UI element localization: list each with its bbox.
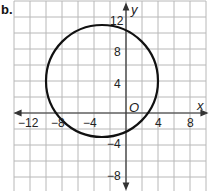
y-axis-down-arrow-icon — [124, 183, 129, 189]
y-tick-neg4: −4 — [107, 138, 121, 150]
x-axis-left-arrow-icon — [15, 111, 21, 116]
x-axis — [15, 111, 207, 116]
origin-label: O — [129, 101, 139, 114]
x-tick-neg12: −12 — [18, 117, 38, 129]
x-tick-neg4: −4 — [83, 117, 97, 129]
x-tick-4: 4 — [155, 117, 162, 129]
y-tick-8: 8 — [114, 46, 121, 58]
y-tick-4: 4 — [114, 78, 121, 90]
y-tick-12: 12 — [110, 15, 123, 27]
coordinate-plane — [0, 0, 211, 191]
y-axis-label: y — [131, 3, 138, 16]
x-tick-neg8: −8 — [51, 117, 65, 129]
y-axis-up-arrow-icon — [124, 4, 129, 10]
x-tick-8: 8 — [187, 117, 194, 129]
x-axis-label: x — [197, 99, 204, 112]
y-tick-neg8: −8 — [107, 170, 121, 182]
grid-lines — [14, 1, 206, 191]
